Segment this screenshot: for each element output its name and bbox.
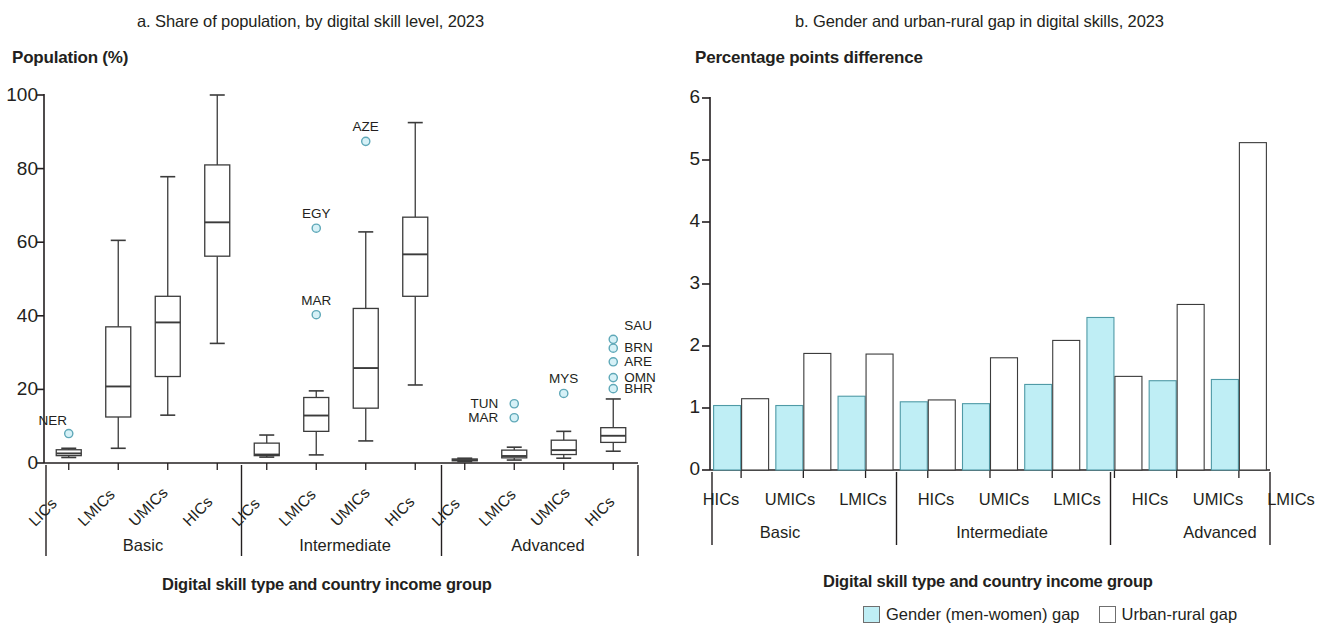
panel-b-gender-urban-rural-gap: b. Gender and urban-rural gap in digital… [660, 0, 1274, 637]
svg-text:TUN: TUN [471, 396, 499, 411]
panel-b-xtick-basic-lmics: LMICs [825, 490, 901, 509]
panel-b-xtick-advanced-umics: UMICs [1180, 490, 1256, 509]
svg-text:EGY: EGY [302, 206, 331, 221]
legend-label-urban-rural-gap: Urban-rural gap [1122, 605, 1238, 624]
panel-a-group-advanced: Advanced [478, 536, 618, 555]
panel-b-legend: Gender (men-women) gap Urban-rural gap [863, 605, 1237, 624]
panel-b-group-intermediate: Intermediate [932, 523, 1072, 542]
svg-text:NER: NER [38, 413, 67, 428]
svg-text:MYS: MYS [549, 371, 578, 386]
panel-a-x-axis-title: Digital skill type and country income gr… [162, 575, 492, 594]
legend-label-gender-gap: Gender (men-women) gap [886, 605, 1080, 624]
panel-b-xtick-advanced-lmics: LMICs [1253, 490, 1319, 509]
svg-text:MAR: MAR [468, 410, 498, 425]
panel-b-x-axis-title: Digital skill type and country income gr… [823, 572, 1153, 591]
panel-b-xtick-advanced-hics: HICs [1117, 490, 1183, 509]
panel-b-xtick-basic-umics: UMICs [752, 490, 828, 509]
panel-b-xtick-basic-hics: HICs [688, 490, 754, 509]
legend-item-urban-rural-gap: Urban-rural gap [1099, 605, 1238, 624]
panel-a-group-basic: Basic [78, 536, 208, 555]
svg-text:MAR: MAR [301, 293, 331, 308]
panel-b-xtick-intermediate-umics: UMICs [966, 490, 1042, 509]
svg-text:AZE: AZE [353, 119, 379, 134]
legend-swatch-gender-gap [863, 606, 880, 623]
legend-swatch-urban-rural-gap [1099, 606, 1116, 623]
legend-item-gender-gap: Gender (men-women) gap [863, 605, 1080, 624]
panel-a-share-of-population: a. Share of population, by digital skill… [0, 0, 660, 637]
svg-text:SAU: SAU [624, 318, 652, 333]
svg-text:BHR: BHR [624, 381, 653, 396]
panel-b-group-advanced: Advanced [1150, 523, 1290, 542]
svg-text:ARE: ARE [624, 354, 652, 369]
panel-a-group-intermediate: Intermediate [275, 536, 415, 555]
panel-b-group-basic: Basic [720, 523, 840, 542]
panel-b-xtick-intermediate-hics: HICs [903, 490, 969, 509]
panel-b-xtick-intermediate-lmics: LMICs [1039, 490, 1115, 509]
